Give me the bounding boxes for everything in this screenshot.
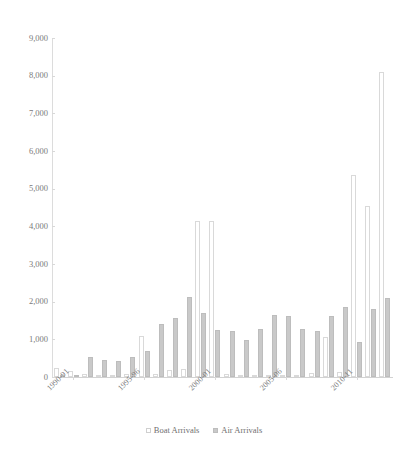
y-axis-tick-mark xyxy=(52,377,55,378)
bar-boat-arrivals xyxy=(224,374,229,377)
y-axis-tick-mark xyxy=(52,38,55,39)
y-axis-labels: 9,0008,0007,0006,0005,0004,0003,0002,000… xyxy=(0,0,48,454)
bar-air-arrivals xyxy=(74,375,79,377)
x-axis-tick-mark xyxy=(73,377,74,380)
y-axis-tick-label: 1,000 xyxy=(4,335,48,344)
y-axis-tick-label: 7,000 xyxy=(4,109,48,118)
bar-air-arrivals xyxy=(173,318,178,378)
y-axis-tick-mark xyxy=(52,113,55,114)
bar-air-arrivals xyxy=(244,340,249,377)
y-axis-tick-label: 9,000 xyxy=(4,34,48,43)
bar-boat-arrivals xyxy=(96,375,101,377)
x-axis-tick-mark xyxy=(286,377,287,380)
bar-air-arrivals xyxy=(286,316,291,377)
y-axis-tick-label: 5,000 xyxy=(4,184,48,193)
legend-label: Air Arrivals xyxy=(221,425,262,435)
bar-air-arrivals xyxy=(145,351,150,377)
y-axis-tick-mark xyxy=(52,302,55,303)
bar-air-arrivals xyxy=(159,324,164,377)
bar-boat-arrivals xyxy=(209,221,214,377)
y-axis-tick-label: 0 xyxy=(4,373,48,382)
bar-chart: 9,0008,0007,0006,0005,0004,0003,0002,000… xyxy=(0,0,408,454)
y-axis-tick-mark xyxy=(52,76,55,77)
bar-boat-arrivals xyxy=(365,206,370,377)
bar-boat-arrivals xyxy=(294,375,299,377)
y-axis-tick-mark xyxy=(52,339,55,340)
legend-swatch-air-icon xyxy=(213,428,218,433)
bar-air-arrivals xyxy=(357,342,362,377)
y-axis-tick-label: 6,000 xyxy=(4,147,48,156)
bar-boat-arrivals xyxy=(181,369,186,377)
bar-boat-arrivals xyxy=(110,375,115,377)
bar-air-arrivals xyxy=(385,298,390,377)
bar-air-arrivals xyxy=(315,331,320,377)
x-axis-tick-mark xyxy=(144,377,145,380)
chart-legend: Boat ArrivalsAir Arrivals xyxy=(0,424,408,435)
y-axis-tick-label: 4,000 xyxy=(4,222,48,231)
bar-air-arrivals xyxy=(371,309,376,377)
bar-boat-arrivals xyxy=(379,72,384,377)
plot-area xyxy=(52,38,392,377)
y-axis-tick-mark xyxy=(52,189,55,190)
bar-boat-arrivals xyxy=(238,375,243,377)
bar-air-arrivals xyxy=(88,357,93,377)
bar-boat-arrivals xyxy=(252,375,257,377)
bar-air-arrivals xyxy=(300,329,305,377)
y-axis-tick-mark xyxy=(52,151,55,152)
y-axis-tick-label: 2,000 xyxy=(4,297,48,306)
y-axis-tick-label: 8,000 xyxy=(4,71,48,80)
x-axis-tick-mark xyxy=(215,377,216,380)
bar-air-arrivals xyxy=(230,331,235,377)
bar-boat-arrivals xyxy=(153,374,158,377)
bar-air-arrivals xyxy=(116,361,121,377)
bar-air-arrivals xyxy=(187,297,192,377)
bar-boat-arrivals xyxy=(195,221,200,377)
bar-boat-arrivals xyxy=(351,175,356,377)
bar-air-arrivals xyxy=(102,360,107,377)
y-axis-tick-mark xyxy=(52,264,55,265)
bar-boat-arrivals xyxy=(323,337,328,377)
bar-air-arrivals xyxy=(329,316,334,377)
legend-entry: Boat Arrivals xyxy=(146,424,200,435)
bar-air-arrivals xyxy=(215,330,220,377)
bar-boat-arrivals xyxy=(167,370,172,377)
x-axis-tick-mark xyxy=(357,377,358,380)
legend-label: Boat Arrivals xyxy=(154,425,200,435)
legend-entry: Air Arrivals xyxy=(213,424,262,435)
y-axis-tick-mark xyxy=(52,226,55,227)
bar-air-arrivals xyxy=(258,329,263,377)
bar-boat-arrivals xyxy=(309,373,314,377)
bar-boat-arrivals xyxy=(82,374,87,377)
y-axis-tick-label: 3,000 xyxy=(4,260,48,269)
legend-swatch-boat-icon xyxy=(146,428,151,433)
